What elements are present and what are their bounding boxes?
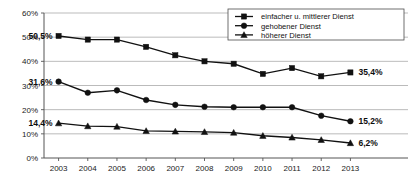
data-point-marker-circle: [348, 118, 354, 124]
series-start-label: 31,6%: [28, 77, 53, 87]
x-axis-label: 2009: [225, 164, 243, 173]
y-axis-label: 60%: [22, 9, 38, 18]
legend-item-label: einfacher u. mittlerer Dienst: [261, 12, 355, 21]
data-point-marker-circle: [260, 104, 266, 110]
data-point-marker-square: [173, 53, 178, 58]
x-axis-label: 2005: [108, 164, 126, 173]
y-axis-label: 40%: [22, 57, 38, 66]
line-chart: 0%10%20%30%40%50%60% 2003200420052006200…: [0, 0, 414, 185]
x-axis-label: 2011: [283, 164, 301, 173]
data-point-marker-square: [56, 33, 61, 38]
series-start-label: 14,4%: [28, 118, 53, 128]
data-point-marker-square: [348, 70, 353, 75]
chart-canvas: 0%10%20%30%40%50%60% 2003200420052006200…: [0, 0, 414, 185]
data-point-marker-square: [144, 44, 149, 49]
x-axis-label: 2007: [166, 164, 184, 173]
data-point-marker-circle: [241, 23, 247, 29]
y-axis-label: 10%: [22, 130, 38, 139]
x-axis-label: 2003: [50, 164, 68, 173]
data-point-marker-square: [260, 71, 265, 76]
y-axis-label: 20%: [22, 106, 38, 115]
data-point-marker-circle: [85, 90, 91, 96]
chart-legend: einfacher u. mittlerer Dienstgehobener D…: [228, 9, 404, 40]
series-end-label: 35,4%: [358, 67, 383, 77]
x-axis-label: 2004: [79, 164, 97, 173]
data-point-marker-square: [85, 37, 90, 42]
data-point-marker-square: [202, 59, 207, 64]
data-point-marker-circle: [173, 102, 179, 108]
y-axis-label: 0%: [26, 154, 38, 163]
data-point-marker-square: [114, 37, 119, 42]
x-axis-label: 2012: [312, 164, 330, 173]
legend-item-label: höherer Dienst: [261, 31, 312, 40]
data-point-marker-circle: [289, 104, 295, 110]
x-axis-label: 2006: [137, 164, 155, 173]
data-point-marker-circle: [318, 113, 324, 119]
legend-item-label: gehobener Dienst: [261, 22, 322, 31]
x-axis-label: 2008: [196, 164, 214, 173]
x-axis-label: 2013: [342, 164, 360, 173]
data-point-marker-circle: [143, 97, 149, 103]
data-point-marker-square: [289, 66, 294, 71]
data-point-marker-square: [241, 14, 246, 19]
data-point-marker-circle: [231, 104, 237, 110]
data-point-marker-circle: [56, 79, 62, 85]
x-axis-label: 2010: [254, 164, 272, 173]
data-point-marker-square: [231, 61, 236, 66]
series-start-label: 50,5%: [28, 31, 53, 41]
data-point-marker-circle: [202, 104, 208, 110]
data-point-marker-circle: [114, 88, 120, 94]
series-end-label: 6,2%: [358, 138, 378, 148]
series-end-label: 15,2%: [358, 116, 383, 126]
data-point-marker-square: [319, 74, 324, 79]
